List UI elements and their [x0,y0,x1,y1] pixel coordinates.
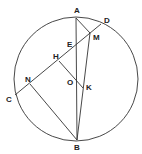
segment-nb [30,84,77,140]
segment-am [76,18,90,33]
geometry-diagram: ABCDEHMNOK [0,0,142,154]
point-label-a: A [74,6,80,15]
point-label-e: E [67,40,73,49]
point-label-k: K [86,83,92,92]
point-label-n: N [25,75,31,84]
segment-ab [76,18,77,140]
point-label-m: M [93,33,100,42]
point-label-d: D [104,16,110,25]
point-label-h: H [53,52,59,61]
point-label-o: O [67,78,73,87]
point-label-b: B [74,143,80,152]
point-label-c: C [6,95,12,104]
